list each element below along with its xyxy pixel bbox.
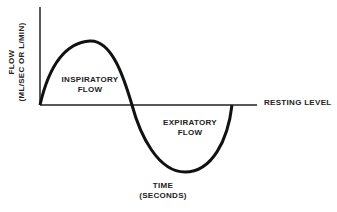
x-axis-label: TIME (SECONDS) <box>133 181 193 201</box>
y-axis-label-line1: FLOW <box>7 7 17 117</box>
inspiratory-line1: INSPIRATORY <box>58 75 122 85</box>
expiratory-flow-label: EXPIRATORY FLOW <box>158 118 222 138</box>
resting-level-label: RESTING LEVEL <box>264 98 328 108</box>
flow-curve <box>40 41 232 172</box>
x-axis-label-line2: (SECONDS) <box>133 191 193 201</box>
inspiratory-flow-label: INSPIRATORY FLOW <box>58 75 122 95</box>
x-axis-label-line1: TIME <box>133 181 193 191</box>
expiratory-line1: EXPIRATORY <box>158 118 222 128</box>
y-axis-label-line2: (ML/SEC OR L/MIN) <box>17 7 27 117</box>
expiratory-line2: FLOW <box>158 128 222 138</box>
inspiratory-line2: FLOW <box>58 85 122 95</box>
y-axis-label: FLOW (ML/SEC OR L/MIN) <box>7 7 27 117</box>
